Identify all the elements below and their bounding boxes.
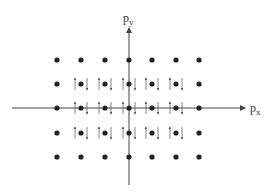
lattice-point [173, 105, 178, 110]
y-axis-label: py [123, 11, 134, 27]
lattice-point [196, 57, 201, 62]
lattice-point [54, 105, 59, 110]
lattice-point [126, 105, 131, 110]
lattice-point [149, 154, 154, 159]
lattice-point [78, 81, 83, 86]
lattice-point [102, 154, 107, 159]
lattice-point [196, 105, 201, 110]
lattice-point [102, 57, 107, 62]
lattice-point [196, 154, 201, 159]
lattice-point [54, 154, 59, 159]
lattice-point [196, 81, 201, 86]
lattice-point [54, 57, 59, 62]
lattice-point [78, 105, 83, 110]
lattice-point [54, 130, 59, 135]
lattice-point [126, 154, 131, 159]
lattice-point [149, 105, 154, 110]
momentum-lattice-diagram: py px [0, 0, 272, 192]
lattice-point [78, 130, 83, 135]
lattice-point [78, 57, 83, 62]
lattice-point [54, 81, 59, 86]
lattice-point [149, 81, 154, 86]
x-axis-label: px [250, 101, 261, 117]
lattice-point [102, 105, 107, 110]
lattice-point [126, 81, 131, 86]
lattice-point [102, 81, 107, 86]
lattice-point [102, 130, 107, 135]
lattice-point [149, 57, 154, 62]
lattice-point [78, 154, 83, 159]
lattice-point [196, 130, 201, 135]
lattice-point [126, 130, 131, 135]
lattice-point [173, 154, 178, 159]
lattice-point [126, 57, 131, 62]
lattice-point [173, 130, 178, 135]
lattice-point [173, 57, 178, 62]
lattice-point [173, 81, 178, 86]
lattice-point [149, 130, 154, 135]
